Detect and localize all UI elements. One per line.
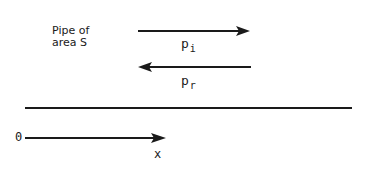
reflected-pressure-subscript: r <box>190 80 196 91</box>
x-axis-arrow <box>25 133 166 143</box>
incident-pressure-label: pi <box>181 36 196 51</box>
reflected-wave-arrow <box>138 62 251 72</box>
pipe-label-line2: area S <box>52 37 89 49</box>
origin-label: 0 <box>15 130 22 144</box>
pipe-label: Pipe of area S <box>52 25 89 49</box>
reflected-pressure-symbol: p <box>181 73 189 88</box>
incident-pressure-subscript: i <box>190 43 196 54</box>
x-axis-label: x <box>154 147 161 161</box>
incident-pressure-symbol: p <box>181 36 189 51</box>
incident-wave-arrow <box>138 26 250 36</box>
reflected-pressure-label: pr <box>181 73 196 88</box>
